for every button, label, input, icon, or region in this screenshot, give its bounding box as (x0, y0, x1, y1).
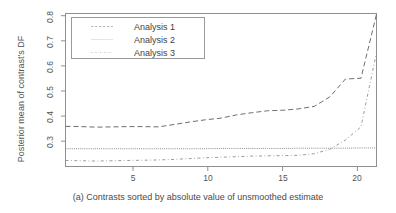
figure-panel: 0.3 0.4 0.5 0.6 0.7 0.8 5 10 15 20 Poste… (0, 0, 396, 213)
legend-label-analysis-3: Analysis 3 (134, 46, 175, 60)
series-line-analysis-2 (66, 148, 377, 149)
x-axis-ticks (133, 167, 357, 172)
legend-entry-analysis-1: Analysis 1 (72, 20, 206, 34)
y-tick-label-5: 0.8 (45, 6, 55, 28)
y-tick-label-0: 0.3 (45, 131, 55, 153)
y-tick-label-4: 0.7 (45, 31, 55, 53)
legend-entry-analysis-2: Analysis 2 (72, 33, 206, 47)
legend: Analysis 1 Analysis 2 Analysis 3 (71, 17, 205, 59)
x-tick-label-1: 10 (196, 173, 220, 183)
legend-key-dashdot-icon (80, 52, 124, 53)
y-tick-label-1: 0.4 (45, 106, 55, 128)
legend-label-analysis-2: Analysis 2 (134, 33, 175, 47)
figure-caption: (a) Contrasts sorted by absolute value o… (0, 192, 396, 202)
x-tick-label-0: 5 (121, 173, 145, 183)
x-tick-label-2: 15 (271, 173, 295, 183)
legend-label-analysis-1: Analysis 1 (134, 20, 175, 34)
legend-key-dashed-icon (80, 26, 124, 27)
y-tick-label-2: 0.5 (45, 81, 55, 103)
legend-entry-analysis-3: Analysis 3 (72, 46, 206, 60)
y-axis-title: Posterior mean of contrast's DF (16, 24, 26, 174)
x-tick-label-3: 20 (345, 173, 369, 183)
legend-key-dotted-icon (80, 39, 124, 40)
y-axis-ticks (61, 16, 66, 142)
series-line-analysis-3 (66, 53, 377, 161)
y-tick-label-3: 0.6 (45, 56, 55, 78)
